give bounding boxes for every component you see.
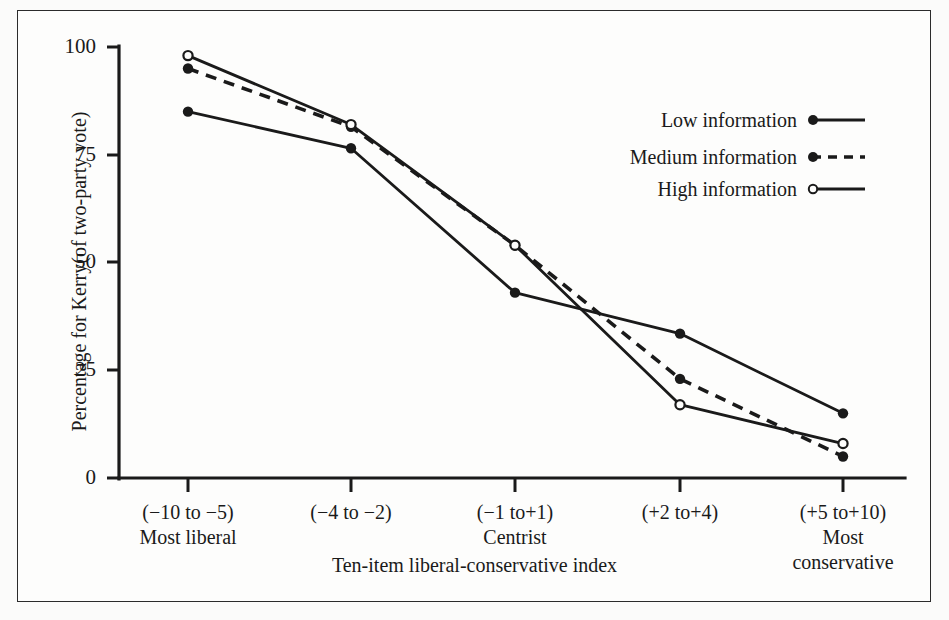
filled-circle-marker-icon <box>808 115 818 125</box>
filled-circle-marker-icon <box>675 328 685 338</box>
filled-circle-marker-icon <box>808 152 818 162</box>
open-circle-marker-icon <box>838 439 847 448</box>
legend-label-low-information: Low information <box>661 110 807 130</box>
x-category-0-sublabel: Most liberal <box>88 525 288 550</box>
filled-circle-marker-icon <box>510 287 520 297</box>
legend-sample-medium-information <box>807 147 867 167</box>
filled-circle-marker-icon <box>675 374 685 384</box>
legend-label-medium-information: Medium information <box>630 147 807 167</box>
open-circle-marker-icon <box>675 400 684 409</box>
legend-item-high-information: High information <box>540 176 867 202</box>
x-axis-title: Ten-item liberal-conservative index <box>0 554 949 577</box>
x-category-1-range: (−4 to −2) <box>310 501 391 523</box>
x-category-4-range: (+5 to+10) <box>800 501 886 523</box>
open-circle-marker-icon <box>510 241 519 250</box>
x-category-0-range: (−10 to −5) <box>142 501 233 523</box>
filled-circle-marker-icon <box>346 143 356 153</box>
legend-item-low-information: Low information <box>540 107 867 133</box>
figure-container: 100 75 50 25 0 Percentage for Kerry(of t… <box>0 0 949 620</box>
filled-circle-marker-icon <box>183 106 193 116</box>
filled-circle-marker-icon <box>838 451 848 461</box>
x-axis-ticks <box>188 478 843 492</box>
y-axis-title: Percentage for Kerry(of two-party vote) <box>68 62 91 482</box>
y-tick-label-100: 100 <box>30 36 96 57</box>
open-circle-marker-icon <box>809 185 817 193</box>
x-category-2-sublabel: Centrist <box>415 525 615 550</box>
x-category-2-range: (−1 to+1) <box>477 501 553 523</box>
open-circle-marker-icon <box>183 51 192 60</box>
legend-item-medium-information: Medium information <box>540 144 867 170</box>
open-circle-marker-icon <box>346 120 355 129</box>
filled-circle-marker-icon <box>838 408 848 418</box>
legend-sample-high-information <box>807 179 867 199</box>
filled-circle-marker-icon <box>183 63 193 73</box>
legend-label-high-information: High information <box>658 179 807 199</box>
y-axis-ticks <box>107 47 119 478</box>
x-category-3-range: (+2 to+4) <box>642 501 718 523</box>
x-category-4-sublabel: Most <box>743 525 943 550</box>
legend-sample-low-information <box>807 110 867 130</box>
